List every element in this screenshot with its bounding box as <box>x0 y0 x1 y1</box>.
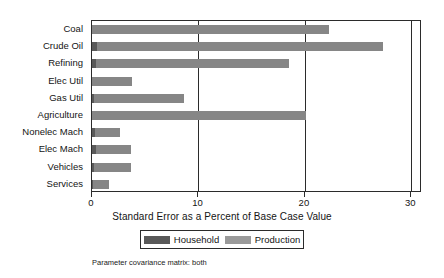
bar-household <box>92 128 95 137</box>
bar-production <box>92 145 131 154</box>
legend-label-production: Production <box>255 234 300 245</box>
bars-layer <box>92 21 420 191</box>
bar-row <box>92 178 420 195</box>
bar-production <box>92 163 131 172</box>
bar-production <box>92 111 306 120</box>
y-axis-labels: CoalCrude OilRefiningElec UtilGas UtilAg… <box>0 20 87 192</box>
bar-household <box>92 163 94 172</box>
x-axis-title: Standard Error as a Percent of Base Case… <box>0 211 444 222</box>
chart-caption: Parameter covariance matrix: both <box>92 258 207 267</box>
bar-production <box>92 180 109 189</box>
bar-production <box>92 25 329 34</box>
legend-item-production: Production <box>225 234 300 245</box>
bar-row <box>92 161 420 178</box>
x-tick-label: 20 <box>299 197 310 209</box>
y-axis-label: Services <box>47 175 83 192</box>
y-axis-label: Coal <box>63 20 83 37</box>
x-tick-label: 0 <box>88 197 93 209</box>
bar-row <box>92 109 420 126</box>
y-axis-label: Refining <box>48 54 83 71</box>
y-axis-label: Nonelec Mach <box>22 123 83 140</box>
bar-production <box>92 77 132 86</box>
bar-row <box>92 126 420 143</box>
y-axis-label: Gas Util <box>49 89 83 106</box>
bar-row <box>92 23 420 40</box>
bar-household <box>92 145 96 154</box>
chart-legend: Household Production <box>140 230 304 249</box>
y-axis-label: Agriculture <box>38 106 83 123</box>
bar-household <box>92 59 96 68</box>
plot-area <box>91 20 421 192</box>
bar-production <box>92 128 120 137</box>
bar-row <box>92 75 420 92</box>
bar-row <box>92 92 420 109</box>
bar-production <box>92 42 383 51</box>
y-axis-label: Elec Util <box>48 72 83 89</box>
bar-row <box>92 57 420 74</box>
bar-chart-figure: CoalCrude OilRefiningElec UtilGas UtilAg… <box>0 0 444 278</box>
bar-household <box>92 42 97 51</box>
x-tick-label: 10 <box>192 197 203 209</box>
household-swatch-icon <box>144 236 170 244</box>
y-axis-label: Crude Oil <box>43 37 83 54</box>
production-swatch-icon <box>225 236 251 244</box>
y-axis-label: Vehicles <box>48 158 83 175</box>
bar-production <box>92 59 289 68</box>
x-tick-label: 30 <box>405 197 416 209</box>
bar-row <box>92 40 420 57</box>
bar-production <box>92 94 184 103</box>
y-axis-label: Elec Mach <box>39 140 83 157</box>
bar-row <box>92 143 420 160</box>
legend-item-household: Household <box>144 234 219 245</box>
bar-household <box>92 94 94 103</box>
bar-household <box>92 180 93 189</box>
legend-label-household: Household <box>174 234 219 245</box>
